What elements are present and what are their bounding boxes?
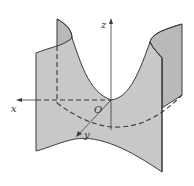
x-axis-label: x — [11, 103, 17, 114]
x-axis-arrow-icon — [16, 98, 22, 102]
z-axis-arrow-icon — [109, 18, 113, 24]
saddle-surface-diagram: x y z O — [0, 0, 194, 186]
origin-label: O — [94, 104, 102, 115]
z-axis-label: z — [100, 19, 107, 30]
y-axis-label: y — [83, 129, 90, 140]
